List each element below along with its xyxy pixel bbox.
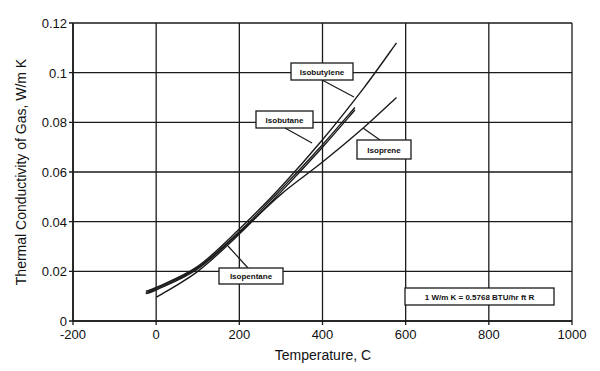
x-tick-label: 600	[395, 327, 417, 342]
y-axis-label: Thermal Conductivity of Gas, W/m K	[13, 58, 29, 285]
thermal-conductivity-chart: -2000200400600800100000.020.040.060.080.…	[0, 0, 600, 371]
isobutylene-label: Isobutylene	[300, 68, 345, 77]
x-tick-label: 0	[153, 327, 160, 342]
data-series	[146, 43, 397, 298]
y-tick-label: 0.08	[42, 115, 67, 130]
series-isobutylene	[146, 43, 397, 291]
y-tick-label: 0.12	[42, 16, 67, 31]
isobutylene-leader-line	[322, 80, 354, 97]
x-tick-label: 1000	[558, 327, 587, 342]
x-axis-label: Temperature, C	[275, 347, 371, 363]
y-tick-label: 0	[60, 314, 67, 329]
isobutane-label: Isobutane	[266, 116, 304, 125]
y-tick-label: 0.02	[42, 264, 67, 279]
series-isobutane	[146, 107, 355, 292]
callouts: IsobutyleneIsobutaneIsopreneIsopentane1 …	[219, 63, 554, 305]
isoprene-label: Isoprene	[367, 146, 401, 155]
y-tick-label: 0.04	[42, 215, 67, 230]
conversion-label: 1 W/m K = 0.5768 BTU/hr ft R	[425, 293, 535, 302]
isopentane-label: Isopentane	[230, 272, 273, 281]
x-tick-label: 800	[478, 327, 500, 342]
y-tick-label: 0.1	[49, 66, 67, 81]
x-tick-label: 400	[312, 327, 334, 342]
isopentane-leader-line	[228, 246, 248, 268]
isobutane-leader-line	[285, 128, 312, 143]
x-tick-label: 200	[228, 327, 250, 342]
y-tick-label: 0.06	[42, 165, 67, 180]
isoprene-leader-line	[363, 128, 380, 140]
x-tick-label: -200	[60, 327, 86, 342]
